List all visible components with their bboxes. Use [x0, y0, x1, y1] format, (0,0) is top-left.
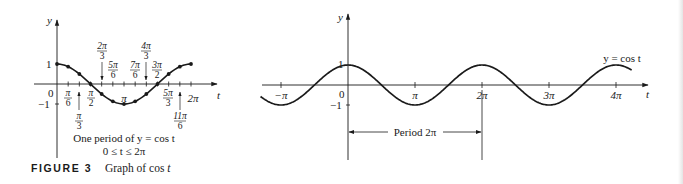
curve-marker [100, 92, 104, 96]
curve-marker [89, 82, 93, 86]
svg-text:6: 6 [133, 70, 138, 80]
label-pi: π [121, 92, 127, 104]
svg-text:π: π [77, 111, 82, 121]
svg-text:4π: 4π [141, 41, 151, 51]
figure-canvas: y t 1 0 −1 π 6 π 3 π 2 2π [0, 0, 683, 184]
svg-text:3π: 3π [151, 60, 162, 70]
left-note-line2: 0 ≤ t ≤ 2π [103, 145, 146, 157]
svg-text:11π: 11π [173, 111, 187, 121]
right-x-tick-neg-pi: −π [275, 89, 288, 101]
svg-text:3: 3 [100, 51, 105, 61]
label-pi-3: π 3 [75, 92, 83, 131]
svg-text:7π: 7π [130, 60, 140, 70]
svg-text:6: 6 [111, 70, 116, 80]
left-y-axis-label: y [46, 14, 52, 26]
figure-caption: FIGURE 3 Graph of cos t [31, 162, 170, 174]
left-x-axis-label: t [217, 89, 221, 101]
curve-marker [189, 62, 193, 66]
left-y-tick-1: 1 [46, 58, 52, 70]
svg-text:π: π [89, 88, 94, 98]
curve-marker [111, 99, 115, 103]
label-7pi-6: 7π 6 [130, 60, 140, 80]
label-4pi-3: 4π 3 [141, 41, 151, 80]
figure-caption-text: Graph of cos t [105, 162, 170, 174]
curve-marker [144, 92, 148, 96]
curve-marker [133, 99, 137, 103]
label-3pi-2: 3π 2 [151, 60, 162, 80]
label-2pi-3: 2π 3 [97, 41, 107, 80]
right-y-tick-neg1: −1 [330, 99, 342, 111]
left-y-tick-neg1: −1 [38, 98, 50, 110]
right-y-axis-label: y [337, 11, 343, 23]
curve-marker [55, 62, 59, 66]
label-pi-2: π 2 [87, 88, 95, 108]
svg-text:6: 6 [178, 121, 183, 131]
curve-marker [178, 65, 182, 69]
period-label: Period 2π [394, 126, 437, 138]
svg-text:3: 3 [77, 121, 82, 131]
curve-marker [66, 65, 70, 69]
right-x-tick-3pi: 3π [542, 89, 555, 101]
svg-text:2: 2 [89, 98, 94, 108]
svg-text:2π: 2π [97, 41, 107, 51]
svg-text:π: π [66, 88, 71, 98]
label-2pi: 2π [187, 92, 199, 104]
right-curve-label: y = cos t [603, 52, 641, 64]
right-x-tick-pi: π [412, 89, 418, 101]
svg-text:6: 6 [66, 98, 71, 108]
svg-text:3: 3 [166, 98, 171, 108]
svg-text:2: 2 [155, 70, 160, 80]
right-x-tick-4pi: 4π [610, 89, 622, 101]
right-x-axis-label: t [646, 88, 650, 100]
right-y-tick-1: 1 [338, 58, 344, 70]
left-note-line1: One period of y = cos t [73, 132, 175, 144]
svg-text:5π: 5π [108, 60, 118, 70]
svg-text:3: 3 [144, 51, 149, 61]
right-graph: y t 1 0 −1 −π π 2π 3π 4π y = cos t Perio… [261, 11, 650, 160]
label-5pi-3: 5π 3 [163, 88, 173, 108]
left-graph: y t 1 0 −1 π 6 π 3 π 2 2π [34, 14, 221, 158]
figure-number: FIGURE 3 [31, 162, 92, 174]
svg-text:5π: 5π [163, 88, 173, 98]
curve-marker [77, 72, 81, 76]
curve-marker [167, 72, 171, 76]
label-pi-6: π 6 [64, 88, 72, 108]
curve-marker [156, 82, 160, 86]
label-11pi-6: 11π 6 [173, 92, 187, 131]
label-5pi-6: 5π 6 [108, 60, 118, 80]
